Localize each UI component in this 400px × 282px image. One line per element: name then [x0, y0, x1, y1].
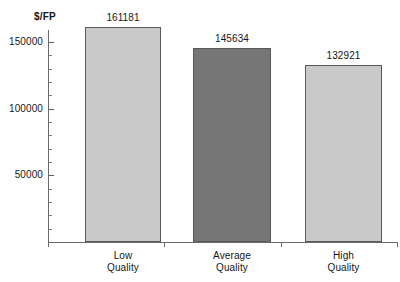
bar [85, 27, 161, 242]
bar-value-label: 145634 [183, 33, 281, 44]
bar-chart: $/FP 15000010000050000 16118114563413292… [0, 0, 400, 282]
y-axis-tick-label: 150000 [4, 36, 43, 47]
x-axis-tick [48, 243, 49, 247]
x-axis-tick [164, 243, 165, 247]
y-axis-tick-label: 50000 [4, 169, 43, 180]
y-axis-tick-minor [49, 69, 52, 70]
y-axis-tick-minor [49, 135, 52, 136]
x-axis-category-label: Average Quality [173, 250, 291, 274]
bar-value-label: 132921 [295, 50, 392, 61]
x-axis-tick [281, 243, 282, 247]
y-axis-tick-minor [49, 215, 52, 216]
y-axis-tick-major [49, 109, 54, 110]
bar [305, 65, 382, 242]
y-axis-tick-label: 100000 [4, 103, 43, 114]
x-axis-category-label: Low Quality [65, 250, 181, 274]
y-axis-tick-minor [49, 149, 52, 150]
y-axis-tick-minor [49, 55, 52, 56]
y-axis-tick-minor [49, 229, 52, 230]
x-axis-line [48, 242, 398, 243]
x-axis-category-label: High Quality [285, 250, 400, 274]
y-axis-tick-minor [49, 82, 52, 83]
y-axis-title: $/FP [34, 11, 56, 22]
y-axis-tick-minor [49, 95, 52, 96]
bar-value-label: 161181 [75, 12, 171, 23]
y-axis-tick-minor [49, 202, 52, 203]
y-axis-tick-minor [49, 189, 52, 190]
y-axis-tick-minor [49, 122, 52, 123]
y-axis-line [48, 30, 49, 243]
bar [193, 48, 271, 242]
y-axis-tick-major [49, 175, 54, 176]
y-axis-tick-minor [49, 162, 52, 163]
y-axis-tick-major [49, 42, 54, 43]
x-axis-tick [397, 243, 398, 247]
